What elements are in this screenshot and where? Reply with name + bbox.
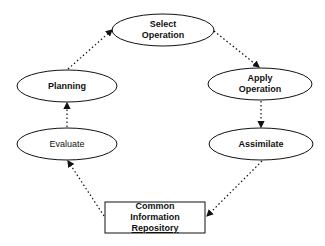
node-label-line: Select (142, 19, 185, 30)
edge-planning-to-select (68, 30, 112, 69)
node-common-information-repository: CommonInformationRepository (105, 202, 205, 233)
node-label-line: Apply (239, 73, 282, 84)
edge-select-to-apply (214, 31, 259, 67)
edge-repository-to-evaluate (68, 161, 104, 216)
node-apply-operation: ApplyOperation (208, 68, 312, 100)
node-label-line: Repository (130, 223, 180, 234)
node-label-line: Information (130, 212, 180, 223)
node-label-line: Planning (48, 81, 86, 92)
node-label-line: Evaluate (49, 139, 84, 150)
node-label-line: Common (130, 201, 180, 212)
node-label-line: Operation (239, 84, 282, 95)
node-evaluate: Evaluate (17, 128, 117, 160)
node-label-line: Assimilate (238, 139, 283, 150)
node-select-operation: SelectOperation (112, 14, 214, 46)
node-assimilate: Assimilate (209, 128, 313, 160)
node-label-line: Operation (142, 30, 185, 41)
node-planning: Planning (17, 70, 117, 102)
edge-assimilate-to-repository (207, 161, 262, 216)
